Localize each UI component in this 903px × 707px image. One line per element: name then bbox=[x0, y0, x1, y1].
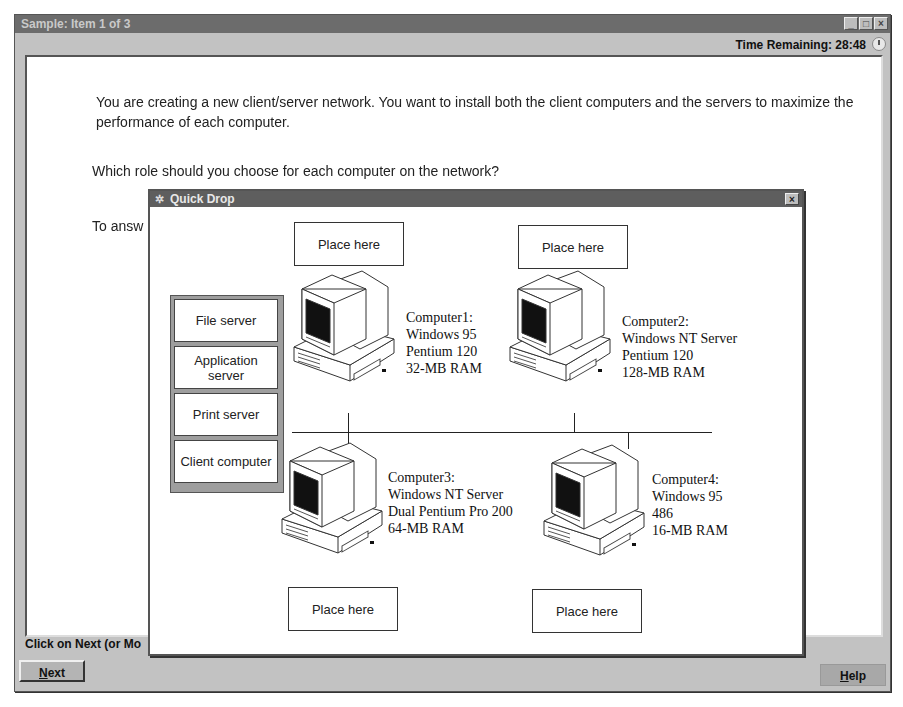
role-file-server[interactable]: File server bbox=[174, 299, 278, 342]
question-scenario: You are creating a new client/server net… bbox=[96, 92, 856, 132]
window-controls: _ □ × bbox=[844, 17, 888, 30]
role-print-server[interactable]: Print server bbox=[174, 393, 278, 436]
next-mnemonic: N bbox=[39, 666, 48, 680]
computer-icon bbox=[540, 443, 650, 563]
computer-ram: 32-MB RAM bbox=[406, 360, 482, 377]
question-prompt: Which role should you choose for each co… bbox=[92, 163, 499, 179]
clock-icon bbox=[872, 37, 886, 51]
computer-cpu: 486 bbox=[652, 505, 728, 522]
window-title: Sample: Item 1 of 3 bbox=[21, 17, 130, 31]
quick-drop-title: Quick Drop bbox=[170, 192, 235, 206]
computer4-spec: Computer4: Windows 95 486 16-MB RAM bbox=[652, 471, 728, 539]
help-button[interactable]: Help bbox=[820, 664, 886, 686]
role-palette: File server Application server Print ser… bbox=[170, 295, 284, 493]
computer3-spec: Computer3: Windows NT Server Dual Pentiu… bbox=[388, 469, 513, 537]
connector-line bbox=[574, 413, 575, 433]
question-instructions: To answ bbox=[92, 218, 143, 234]
drop-target-computer2[interactable]: Place here bbox=[518, 225, 628, 269]
window-titlebar: Sample: Item 1 of 3 _ □ × bbox=[15, 15, 890, 33]
connector-line bbox=[348, 413, 349, 433]
next-label: ext bbox=[48, 666, 65, 680]
computer2-spec: Computer2: Windows NT Server Pentium 120… bbox=[622, 313, 737, 381]
gear-icon: ✲ bbox=[155, 193, 164, 205]
computer-name: Computer1: bbox=[406, 309, 482, 326]
computer-cpu: Dual Pentium Pro 200 bbox=[388, 503, 513, 520]
time-remaining: Time Remaining: 28:48 bbox=[736, 38, 867, 52]
computer-name: Computer4: bbox=[652, 471, 728, 488]
computer-name: Computer3: bbox=[388, 469, 513, 486]
computer-icon bbox=[278, 441, 388, 561]
drop-target-computer1[interactable]: Place here bbox=[294, 222, 404, 266]
maximize-button[interactable]: □ bbox=[859, 17, 873, 30]
computer-ram: 64-MB RAM bbox=[388, 520, 513, 537]
close-button[interactable]: × bbox=[874, 17, 888, 30]
role-application-server[interactable]: Application server bbox=[174, 346, 278, 389]
help-label: elp bbox=[849, 669, 866, 683]
quick-drop-dialog: ✲ Quick Drop × File server Application s… bbox=[148, 189, 804, 656]
computer1-spec: Computer1: Windows 95 Pentium 120 32-MB … bbox=[406, 309, 482, 377]
computer-os: Windows NT Server bbox=[388, 486, 513, 503]
role-client-computer[interactable]: Client computer bbox=[174, 440, 278, 483]
computer-ram: 16-MB RAM bbox=[652, 522, 728, 539]
computer-os: Windows 95 bbox=[406, 326, 482, 343]
help-mnemonic: H bbox=[840, 669, 849, 683]
timer-bar: Time Remaining: 28:48 bbox=[15, 34, 890, 54]
computer-cpu: Pentium 120 bbox=[622, 347, 737, 364]
computer-os: Windows NT Server bbox=[622, 330, 737, 347]
drop-target-computer3[interactable]: Place here bbox=[288, 587, 398, 631]
quick-drop-close-button[interactable]: × bbox=[785, 193, 799, 205]
computer-icon bbox=[506, 269, 616, 389]
network-bus-line bbox=[292, 432, 712, 433]
computer-ram: 128-MB RAM bbox=[622, 364, 737, 381]
status-instruction: Click on Next (or Mo bbox=[25, 637, 141, 651]
computer-cpu: Pentium 120 bbox=[406, 343, 482, 360]
minimize-button[interactable]: _ bbox=[844, 17, 858, 30]
computer-os: Windows 95 bbox=[652, 488, 728, 505]
computer-icon bbox=[290, 269, 400, 389]
next-button[interactable]: Next bbox=[19, 660, 85, 682]
computer-name: Computer2: bbox=[622, 313, 737, 330]
quick-drop-titlebar[interactable]: ✲ Quick Drop × bbox=[150, 191, 802, 207]
drop-target-computer4[interactable]: Place here bbox=[532, 589, 642, 633]
